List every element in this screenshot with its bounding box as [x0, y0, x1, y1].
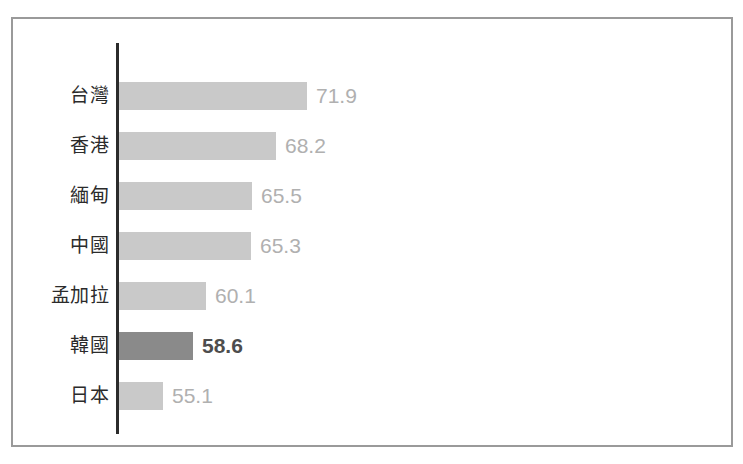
chart-root: 台灣71.9香港68.2緬甸65.5中國65.3孟加拉60.1韓國58.6日本5…: [0, 0, 743, 464]
bar-value-label: 58.6: [193, 332, 243, 360]
bar-category-label: 中國: [70, 221, 109, 271]
chart-frame: 台灣71.9香港68.2緬甸65.5中國65.3孟加拉60.1韓國58.6日本5…: [11, 17, 733, 447]
bar-row[interactable]: 韓國58.6: [13, 321, 735, 371]
bar-value-label: 60.1: [206, 282, 256, 310]
bar-row[interactable]: 中國65.3: [13, 221, 735, 271]
bar-row[interactable]: 緬甸65.5: [13, 171, 735, 221]
bar-category-label: 台灣: [70, 71, 109, 121]
bar-value-label: 71.9: [307, 82, 357, 110]
bar-category-label: 緬甸: [70, 171, 109, 221]
bar-category-label: 孟加拉: [51, 271, 110, 321]
bar-rect[interactable]: [119, 382, 163, 410]
bar-value-label: 65.5: [252, 182, 302, 210]
bar-category-label: 日本: [70, 371, 109, 421]
bar-rect-highlighted[interactable]: [119, 332, 193, 360]
bar-rect[interactable]: [119, 132, 276, 160]
bar-row[interactable]: 孟加拉60.1: [13, 271, 735, 321]
bar-row[interactable]: 香港68.2: [13, 121, 735, 171]
bar-series: 台灣71.9香港68.2緬甸65.5中國65.3孟加拉60.1韓國58.6日本5…: [13, 19, 735, 449]
bar-rect[interactable]: [119, 182, 252, 210]
bar-rect[interactable]: [119, 232, 251, 260]
bar-row[interactable]: 台灣71.9: [13, 71, 735, 121]
bar-row[interactable]: 日本55.1: [13, 371, 735, 421]
plot-area: 台灣71.9香港68.2緬甸65.5中國65.3孟加拉60.1韓國58.6日本5…: [13, 19, 735, 449]
bar-value-label: 65.3: [251, 232, 301, 260]
bar-rect[interactable]: [119, 282, 206, 310]
bar-category-label: 韓國: [70, 321, 109, 371]
bar-category-label: 香港: [70, 121, 109, 171]
bar-value-label: 55.1: [163, 382, 213, 410]
bar-value-label: 68.2: [276, 132, 326, 160]
bar-rect[interactable]: [119, 82, 307, 110]
